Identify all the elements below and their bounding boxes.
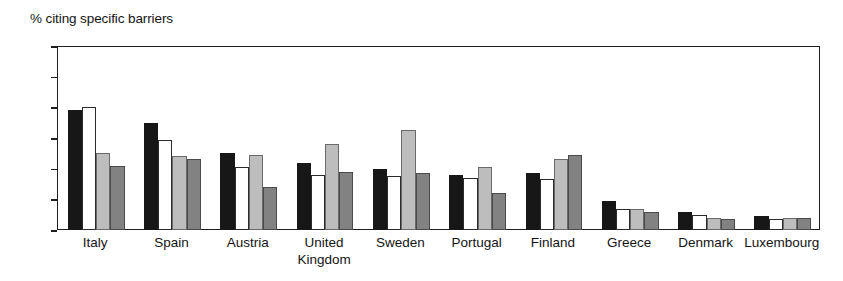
bar [297,163,311,230]
bar-group [144,46,201,230]
bar [492,193,506,230]
bar [263,187,277,230]
bar [463,178,477,230]
bar [797,218,811,230]
bars-layer [57,46,820,230]
bar [568,155,582,230]
bar [96,153,110,230]
bar [387,176,401,230]
x-axis-label: Finland [509,234,597,251]
bar [339,172,353,230]
bar [540,179,554,230]
x-axis-label: Luxembourg [738,234,826,251]
bar [110,166,124,230]
bar [721,219,735,230]
bar [235,167,249,230]
bar-chart: % citing specific barriers 0102030405060… [0,0,843,281]
bar-group [68,46,125,230]
x-axis-label: Denmark [661,234,749,251]
bar [68,110,82,230]
bar [554,159,568,230]
x-axis-labels: ItalySpainAustriaUnited KingdomSwedenPor… [57,234,820,280]
bar [644,212,658,230]
bar [187,159,201,230]
bar [158,140,172,230]
bar-group [373,46,430,230]
bar [616,209,630,230]
bar [769,219,783,230]
bar [783,218,797,230]
bar-group [526,46,583,230]
y-axis-tick-mark [51,230,57,232]
bar [325,144,339,230]
x-axis-label: United Kingdom [280,234,368,268]
bar [311,175,325,230]
bar-group [754,46,811,230]
bar [526,173,540,230]
bar [401,130,415,230]
x-axis-label: Portugal [433,234,521,251]
bar [373,169,387,230]
bar [82,107,96,230]
x-axis-label: Italy [51,234,139,251]
bar-group [602,46,659,230]
bar [220,153,234,230]
bar [602,201,616,230]
bar [754,216,768,230]
bar [144,123,158,230]
bar-group [297,46,354,230]
bar [678,212,692,230]
bar [172,156,186,230]
bar-group [449,46,506,230]
x-axis-label: Sweden [356,234,444,251]
x-axis-label: Austria [204,234,292,251]
bar [416,173,430,230]
bar [707,218,721,230]
x-axis-label: Greece [585,234,673,251]
bar [478,167,492,230]
bar [630,209,644,230]
bar [449,175,463,230]
bar-group [220,46,277,230]
bar-group [678,46,735,230]
bar [692,215,706,230]
x-axis-label: Spain [127,234,215,251]
bar [249,155,263,230]
